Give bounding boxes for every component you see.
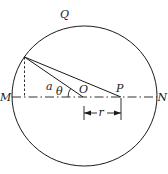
- label-q: Q: [60, 8, 69, 21]
- label-a: a: [46, 80, 53, 93]
- arrowhead-right-icon: [114, 111, 121, 116]
- angle-arc: [68, 88, 71, 97]
- label-m: M: [0, 91, 12, 104]
- label-theta: θ: [56, 85, 63, 98]
- label-o: O: [79, 83, 88, 96]
- line-to-p: [25, 57, 122, 97]
- arrowhead-left-icon: [84, 111, 91, 116]
- label-n: N: [157, 91, 168, 104]
- label-p: P: [115, 82, 124, 95]
- circle-diagram: Q M N a θ O P r: [0, 0, 168, 174]
- radius-line: [25, 57, 84, 97]
- label-r: r: [99, 106, 105, 119]
- circle-boundary: [12, 26, 157, 166]
